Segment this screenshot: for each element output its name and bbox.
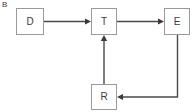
edge-t-to-e — [117, 18, 164, 24]
panel-label: B — [2, 0, 7, 10]
edge-e-to-r — [117, 35, 178, 100]
node-e[interactable]: E — [164, 8, 190, 35]
diagram-canvas: B D T E R — [0, 0, 192, 112]
node-r[interactable]: R — [91, 84, 117, 110]
node-r-label: R — [100, 92, 107, 102]
edge-d-to-t — [44, 18, 91, 24]
edge-r-to-t — [101, 35, 107, 84]
node-d[interactable]: D — [16, 8, 44, 35]
node-t[interactable]: T — [91, 8, 117, 35]
node-d-label: D — [26, 17, 33, 27]
node-t-label: T — [101, 17, 107, 27]
node-e-label: E — [174, 17, 181, 27]
